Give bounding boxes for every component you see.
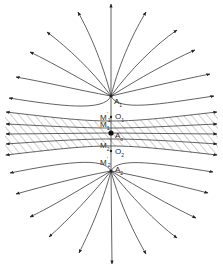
- point-a1: [109, 94, 112, 97]
- label-m2: M2: [100, 142, 109, 153]
- label-a2: A2: [115, 166, 123, 177]
- point-o2: [110, 150, 112, 152]
- label-o2: O2: [115, 148, 124, 159]
- point-a2: [109, 169, 112, 172]
- label-o1: O1: [115, 113, 124, 124]
- label-a1: A1: [114, 98, 122, 109]
- label-m1: M1: [100, 121, 109, 132]
- label-m2-prime: M'2: [100, 155, 110, 169]
- label-ao: Ao: [115, 132, 123, 143]
- upper-fan-lines: [9, 4, 214, 106]
- field-line-diagram: [0, 0, 223, 267]
- lower-fan-lines: [10, 162, 213, 264]
